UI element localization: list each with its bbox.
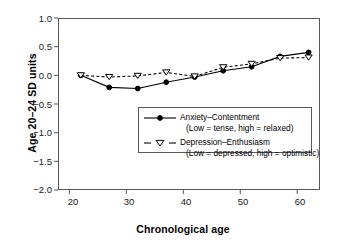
data-point	[305, 55, 312, 60]
legend-key-anxiety-contentment	[143, 112, 177, 123]
legend-sub-depression-enthusiasm: (Low = depressed, high = optimistic)	[186, 148, 319, 158]
legend-sub-anxiety-contentment: (Low = tense, high = relaxed)	[186, 123, 293, 133]
axis-ticks	[54, 18, 297, 194]
legend-key-depression-enthusiasm	[143, 137, 177, 148]
data-point	[164, 80, 169, 85]
data-point	[135, 86, 140, 91]
chart-figure: Age 20–24 SD units Chronological age 1.0…	[0, 0, 349, 246]
data-point	[306, 50, 311, 55]
legend-label-anxiety-contentment: Anxiety–Contentment	[180, 112, 259, 122]
data-point	[107, 85, 112, 90]
chart-legend: Anxiety–Contentment (Low = tense, high =…	[138, 107, 312, 153]
data-series-layer	[77, 50, 312, 91]
legend-label-depression-enthusiasm: Depression–Enthusiasm	[180, 137, 270, 147]
series-line-0	[81, 52, 309, 88]
